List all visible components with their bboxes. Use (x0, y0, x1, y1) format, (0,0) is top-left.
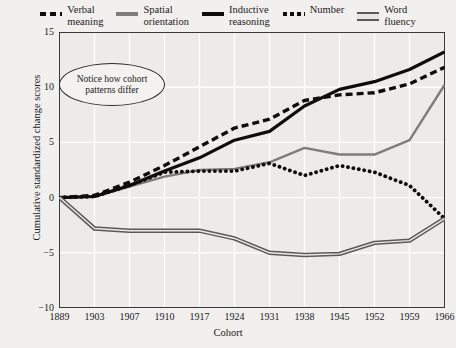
x-tick-label: 1938 (285, 311, 325, 322)
legend-item-word-fluency: Word fluency (357, 4, 416, 27)
x-axis-label: Cohort (0, 327, 456, 338)
legend-swatch-icon (283, 7, 305, 19)
x-tick-label: 1889 (40, 311, 80, 322)
legend-swatch-icon (357, 7, 379, 19)
x-tick-label: 1903 (75, 311, 115, 322)
chart-figure: Verbal meaningSpatial orientationInducti… (0, 0, 456, 348)
legend-item-number: Number (283, 4, 344, 19)
annotation-callout: Notice how cohort patterns differ (59, 63, 165, 106)
x-tick-label: 1907 (110, 311, 150, 322)
x-tick-label: 1931 (250, 311, 290, 322)
legend-item-inductive-reasoning: Inductive reasoning (202, 4, 270, 27)
legend-item-verbal-meaning: Verbal meaning (40, 4, 103, 27)
legend-swatch-icon (202, 7, 224, 19)
x-tick-label: 1945 (320, 311, 360, 322)
legend-item-label: Number (310, 4, 344, 16)
legend-item-label: Spatial orientation (143, 4, 189, 27)
legend-item-spatial-orientation: Spatial orientation (116, 4, 189, 27)
x-tick-label: 1910 (145, 311, 185, 322)
y-tick-label: 5 (28, 136, 54, 147)
x-tick-label: 1966 (425, 311, 456, 322)
legend-swatch-icon (116, 7, 138, 19)
y-tick-label: 15 (28, 26, 54, 37)
x-tick-label: 1917 (180, 311, 220, 322)
x-tick-label: 1952 (355, 311, 395, 322)
y-axis-label: Cumulative standardized change scores (31, 38, 42, 278)
legend-item-label: Inductive reasoning (229, 4, 270, 27)
x-tick-label: 1959 (390, 311, 430, 322)
legend-swatch-icon (40, 7, 62, 19)
x-tick-label: 1924 (215, 311, 255, 322)
legend-item-label: Verbal meaning (67, 4, 103, 27)
y-tick-label: 0 (28, 192, 54, 203)
annotation-text: Notice how cohort patterns differ (59, 63, 165, 106)
legend-item-label: Word fluency (384, 4, 416, 27)
y-tick-label: −5 (28, 247, 54, 258)
y-tick-label: 10 (28, 81, 54, 92)
